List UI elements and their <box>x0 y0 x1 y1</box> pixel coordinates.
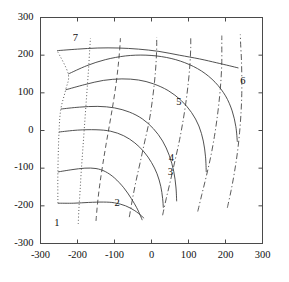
y-tick-label: -100 <box>0 162 34 173</box>
curve-label-7: 7 <box>73 33 78 44</box>
y-tick-label: 200 <box>0 49 34 60</box>
curve-label-3: 3 <box>168 167 173 178</box>
curve-label-5: 5 <box>176 97 181 108</box>
mesh-curve-h2 <box>58 168 142 220</box>
mesh-curve-h4 <box>61 106 177 201</box>
curve-label-1: 1 <box>54 218 59 229</box>
y-tick-label: -300 <box>0 238 34 249</box>
mesh-curve-v4 <box>129 37 156 217</box>
curvilinear-mesh-plot <box>0 0 289 282</box>
mesh-curve-v6 <box>198 36 222 212</box>
mesh-curve-h3 <box>59 130 163 208</box>
curve-label-2: 2 <box>114 198 119 209</box>
curve-label-6: 6 <box>240 76 245 87</box>
y-tick-label: -200 <box>0 200 34 211</box>
mesh-curve-v1 <box>57 51 68 204</box>
mesh-curves <box>57 34 242 223</box>
x-tick-label: 300 <box>237 250 289 261</box>
curve-label-4: 4 <box>169 153 174 164</box>
y-tick-label: 100 <box>0 87 34 98</box>
plot-figure: -300-200-1000100200300 -300-200-10001002… <box>0 0 289 282</box>
y-tick-label: 300 <box>0 12 34 23</box>
mesh-curve-v2 <box>78 38 90 224</box>
mesh-curve-h7 <box>57 48 238 68</box>
y-tick-label: 0 <box>0 125 34 136</box>
